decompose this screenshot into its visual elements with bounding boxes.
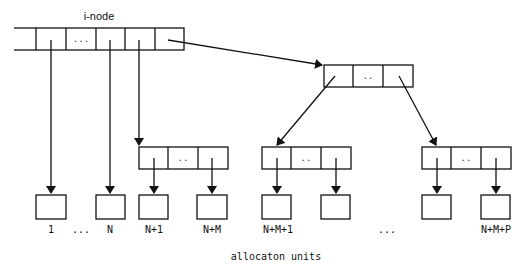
unit-label: N [107, 224, 113, 235]
allocation-units-caption: allocaton units [231, 251, 321, 262]
allocation-unit-boxes [36, 195, 510, 219]
indirect-ellipsis: .. [301, 153, 312, 163]
unit-label: N+1 [145, 224, 163, 235]
inode-ellipsis: ... [73, 34, 89, 44]
allocation-unit-labels: 1 ... N N+1 N+M N+M+1 ... N+M+P [48, 224, 511, 235]
unit-label: ... [72, 224, 90, 235]
unit-label: N+M+P [481, 224, 511, 235]
indirect-ellipsis: .. [363, 71, 374, 81]
indirect-ellipsis: .. [178, 153, 189, 163]
unit-label: ... [378, 224, 396, 235]
unit-label: 1 [48, 224, 54, 235]
inode-block [14, 28, 184, 50]
unit-label: N+M+1 [263, 224, 293, 235]
inode-diagram: i-node ... .. .. .. .. 1 ... N N+1 N+M N… [0, 0, 528, 280]
pointer-arrows [51, 40, 496, 193]
unit-label: N+M [203, 224, 221, 235]
inode-label: i-node [84, 10, 115, 22]
indirect-ellipsis: .. [461, 153, 472, 163]
